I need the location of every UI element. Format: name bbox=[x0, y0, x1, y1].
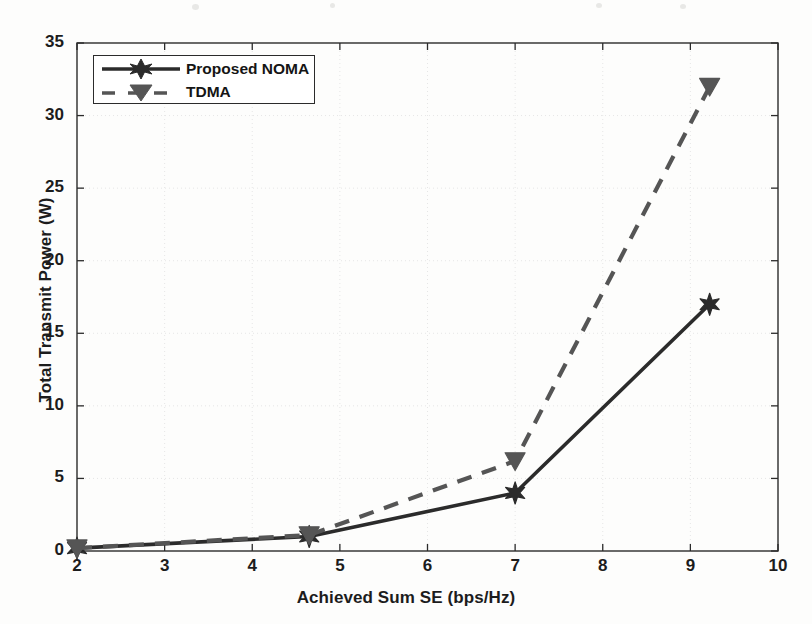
legend-label-noma: Proposed NOMA bbox=[186, 60, 309, 78]
x-axis-label: Achieved Sum SE (bps/Hz) bbox=[0, 588, 812, 608]
gridlines bbox=[77, 43, 778, 551]
x-tick-label: 5 bbox=[320, 556, 360, 576]
y-tick-label: 35 bbox=[22, 32, 64, 52]
x-tick-label: 8 bbox=[583, 556, 623, 576]
x-tick-label: 7 bbox=[495, 556, 535, 576]
legend-label-tdma: TDMA bbox=[186, 83, 231, 101]
chart-figure: 2345678910 05101520253035 Achieved Sum S… bbox=[0, 0, 812, 624]
legend-entry-noma: Proposed NOMA bbox=[94, 57, 314, 81]
legend-entry-tdma: TDMA bbox=[94, 80, 314, 104]
figure-page: 2345678910 05101520253035 Achieved Sum S… bbox=[0, 0, 812, 624]
y-tick-label: 30 bbox=[22, 105, 64, 125]
data-series-layer bbox=[67, 78, 720, 559]
y-axis-label: Total Transmit Power (W) bbox=[36, 150, 56, 450]
x-tick-label: 10 bbox=[758, 556, 798, 576]
legend-sample-tdma bbox=[100, 80, 182, 104]
x-tick-label: 9 bbox=[670, 556, 710, 576]
y-tick-label: 0 bbox=[22, 540, 64, 560]
x-tick-label: 4 bbox=[232, 556, 272, 576]
legend-sample-noma bbox=[100, 57, 182, 81]
x-tick-label: 6 bbox=[408, 556, 448, 576]
legend: Proposed NOMA TDMA bbox=[93, 55, 315, 104]
x-tick-label: 3 bbox=[145, 556, 185, 576]
y-tick-label: 5 bbox=[22, 467, 64, 487]
